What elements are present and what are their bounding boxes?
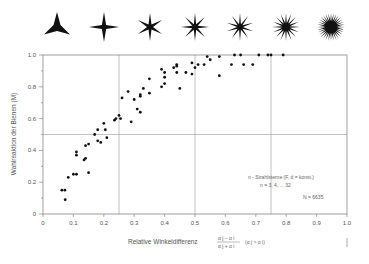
data-point [175,71,178,74]
data-point [64,198,67,201]
y-tick-label: 0.4 [28,147,37,153]
data-point [218,74,221,77]
x-axis-title: Relative Winkeldifferenz [128,238,198,245]
data-point [139,93,142,96]
x-axis-condition: (α j > α i) [245,239,265,245]
data-point [115,117,118,120]
x-tick-label: 0.3 [130,220,139,226]
data-point [84,157,87,160]
reference-lines [43,55,347,214]
annotation-line-2: n = 3, 4, ... 32 [260,182,291,188]
x-tick-label: 0.7 [252,220,261,226]
data-point [93,133,96,136]
x-tick-label: 0.2 [100,220,109,226]
data-point [75,154,78,157]
x-tick-label: 0.5 [191,220,200,226]
data-point [218,55,221,58]
annotation-line-1: n - Strahlsterne (F, d = konst.) [248,174,314,180]
data-point [267,54,270,57]
y-tick-label: 0.2 [28,179,37,185]
data-point [119,117,122,120]
data-point [121,97,124,100]
data-point [136,108,139,111]
data-point [282,54,285,57]
x-tick-label: 0.8 [282,220,291,226]
data-point [96,128,99,131]
data-point [239,54,242,57]
annotation-line-3: N = 6635 [303,194,324,200]
x-tick-label: 0.4 [160,220,169,226]
x-tick-label: 0 [41,220,45,226]
data-point [104,128,107,131]
y-tick-label: 1.0 [28,52,37,58]
data-point [105,136,108,139]
data-point [127,90,130,93]
data-point [133,98,136,101]
data-point [160,85,163,88]
data-point [194,66,197,69]
data-point [60,189,63,192]
data-point [148,92,151,95]
data-point [257,54,260,57]
data-point [251,63,254,66]
y-tick-label: 0 [33,211,37,217]
data-point [178,87,181,90]
data-point [130,120,133,123]
data-point [142,87,145,90]
x-axis: 00.10.20.30.40.50.60.70.80.91.0 [41,214,352,226]
x-axis-fraction-numerator: α j − α i [218,235,234,241]
data-point [75,173,78,176]
data-point [67,176,70,179]
y-tick-label: 0.8 [28,84,37,90]
data-point [148,77,151,80]
data-point [118,114,121,117]
data-point [84,144,87,147]
x-tick-label: 0.6 [221,220,230,226]
data-point [197,63,200,66]
data-point [175,65,178,68]
data-point [191,62,194,65]
x-tick-label: 0.1 [69,220,78,226]
data-point [270,54,273,57]
data-point [163,76,166,79]
data-point [184,71,187,74]
y-axis: 00.20.40.60.81.0 [28,52,43,217]
data-point [203,63,206,66]
scatter-chart: 00.10.20.30.40.50.60.70.80.91.0 00.20.40… [0,0,369,264]
x-tick-label: 0.9 [312,220,321,226]
data-point [230,63,233,66]
data-point [163,82,166,85]
x-axis-fraction-denominator: α j + α i [218,243,234,249]
data-point [96,139,99,142]
y-axis-title: Wahlreaktion der Bienen (M) [10,93,18,176]
data-point [191,73,194,76]
data-point [160,68,163,71]
y-tick-label: 0.6 [28,116,37,122]
data-point [87,143,90,146]
data-point [75,151,78,154]
data-point [139,111,142,114]
data-point [102,122,105,125]
data-point [242,63,245,66]
data-point [99,141,102,144]
data-point [87,171,90,174]
data-point [72,173,75,176]
data-point [233,54,236,57]
data-point [163,71,166,74]
data-point [209,58,212,61]
data-point [63,189,66,192]
x-tick-label: 1.0 [343,220,352,226]
data-point [172,66,175,69]
data-point [206,55,209,58]
